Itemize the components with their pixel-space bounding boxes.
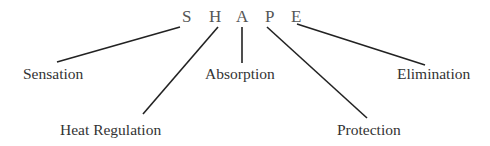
- label-absorption: Absorption: [205, 66, 275, 82]
- connector-e: [297, 24, 425, 65]
- label-heat-regulation: Heat Regulation: [60, 122, 161, 138]
- connector-s: [57, 27, 180, 62]
- label-elimination: Elimination: [397, 66, 470, 82]
- letter-s: S: [182, 8, 191, 25]
- letter-h: H: [209, 8, 221, 25]
- letter-a: A: [236, 8, 248, 25]
- letter-p: P: [265, 8, 274, 25]
- label-sensation: Sensation: [23, 66, 83, 82]
- connector-p: [267, 27, 367, 118]
- shape-diagram: S H A P E Sensation Heat Regulation Abso…: [0, 0, 490, 146]
- label-protection: Protection: [337, 122, 401, 138]
- letter-e: E: [291, 8, 301, 25]
